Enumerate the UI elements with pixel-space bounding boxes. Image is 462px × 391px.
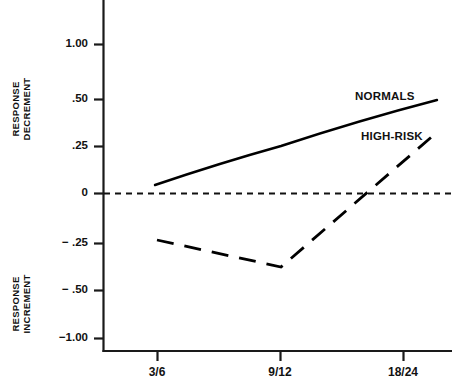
y-tick-label-neg0.50: − .50 (20, 283, 88, 295)
y-tick-label-neg0.25: − .25 (20, 236, 88, 248)
chart-container: RESPONSE DECREMENT RESPONSE INCREMENT 1.… (0, 0, 462, 391)
x-axis-ticks (158, 351, 404, 361)
y-tick-label-0.50: .50 (20, 92, 88, 104)
x-tick-label-3-6: 3/6 (117, 365, 197, 379)
series-line-high-risk (157, 134, 435, 267)
series-label-normals: NORMALS (355, 90, 415, 102)
series-label-high-risk: HIGH-RISK (361, 130, 423, 142)
y-tick-label-0.25: .25 (20, 139, 88, 151)
series-line-normals (155, 100, 437, 185)
y-tick-label-neg1.00: −1.00 (20, 331, 88, 343)
x-tick-label-9-12: 9/12 (240, 365, 320, 379)
y-tick-label-1.00: 1.00 (20, 37, 88, 49)
x-tick-label-18-24: 18/24 (363, 365, 443, 379)
y-tick-label-0: 0 (20, 186, 88, 198)
